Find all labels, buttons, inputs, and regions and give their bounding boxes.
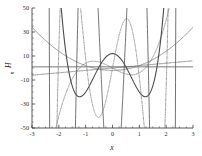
y-axis-title-subscript: n xyxy=(9,71,15,74)
hermite-polynomial-figure: -50-30-10103050 -3-2-10123 H n x xyxy=(0,0,202,156)
y-tick-label: 10 xyxy=(23,52,29,59)
y-axis-title: H xyxy=(4,62,13,69)
x-tick-label: -2 xyxy=(56,130,61,137)
y-tick-label: 30 xyxy=(23,28,29,35)
x-tick-label: -3 xyxy=(29,130,34,137)
y-tick-label: -30 xyxy=(21,100,29,107)
x-axis-title: x xyxy=(109,143,114,152)
chart-canvas: -50-30-10103050 -3-2-10123 H n x xyxy=(0,0,202,156)
y-tick-label: -50 xyxy=(21,124,29,131)
x-tick-label: 0 xyxy=(111,130,114,137)
y-tick-label: -10 xyxy=(21,76,29,83)
y-tick-label: 50 xyxy=(23,4,29,11)
x-tick-label: -1 xyxy=(83,130,88,137)
x-tick-label: 1 xyxy=(138,130,141,137)
x-tick-label: 2 xyxy=(165,130,168,137)
x-tick-label: 3 xyxy=(191,130,194,137)
